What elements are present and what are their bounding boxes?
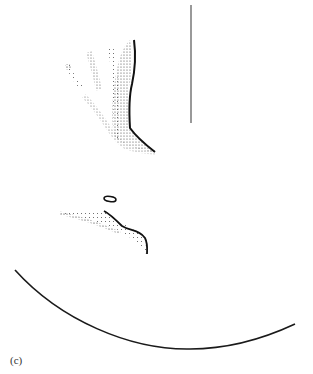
panel-label: (c) xyxy=(10,354,22,366)
figure-panel: (c) xyxy=(0,0,313,374)
figure-drawing xyxy=(0,0,313,374)
stippled-ridge xyxy=(60,211,147,255)
curved-arc xyxy=(15,270,295,349)
stippled-branching-structure xyxy=(65,40,155,152)
small-oval xyxy=(104,196,117,203)
